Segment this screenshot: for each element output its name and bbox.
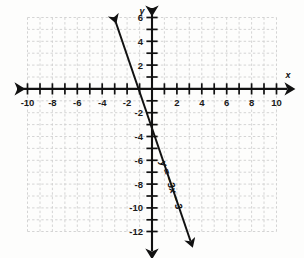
x-tick-label: -6	[73, 97, 81, 108]
coordinate-plane-figure: -10 -8 -6 -4 -2 2 4 6 8 10 6 4 2 -2 -4 -…	[0, 0, 304, 258]
y-tick-label: -12	[129, 226, 143, 237]
x-tick-label: -2	[123, 97, 131, 108]
y-axis-tick-labels: 6 4 2 -2 -4 -6 -8 -10 -12	[129, 12, 143, 237]
x-tick-label: 4	[199, 97, 205, 108]
y-tick-label: 2	[138, 60, 143, 71]
x-tick-label: 8	[249, 97, 254, 108]
y-tick-label: -2	[135, 107, 143, 118]
y-tick-label: 4	[138, 36, 144, 47]
x-tick-label: 2	[174, 97, 179, 108]
x-tick-label: 10	[271, 97, 282, 108]
x-tick-label: -10	[21, 97, 35, 108]
x-axis-label: x	[284, 70, 291, 80]
y-tick-label: -8	[135, 179, 143, 190]
y-tick-label: -4	[135, 131, 144, 142]
graph-canvas: -10 -8 -6 -4 -2 2 4 6 8 10 6 4 2 -2 -4 -…	[0, 0, 304, 258]
equation-label: y = −3x − 3	[158, 158, 185, 211]
y-axis-label: y	[138, 6, 145, 16]
y-tick-label: -6	[135, 155, 143, 166]
y-tick-label: -10	[129, 202, 143, 213]
x-tick-label: -4	[98, 97, 107, 108]
x-tick-label: 6	[224, 97, 229, 108]
x-tick-label: -8	[48, 97, 56, 108]
